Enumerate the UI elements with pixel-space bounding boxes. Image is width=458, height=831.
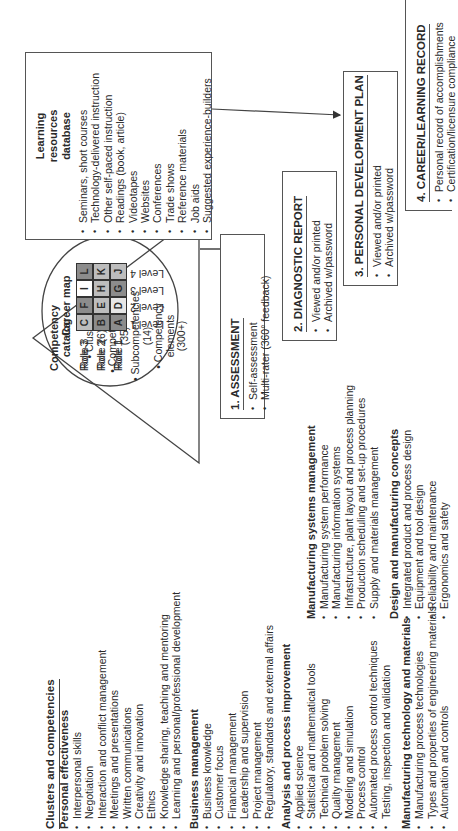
resources-to-plan-arrow (0, 0, 452, 831)
competency-diagram: Clusters and competencies Personal effec… (0, 0, 452, 831)
